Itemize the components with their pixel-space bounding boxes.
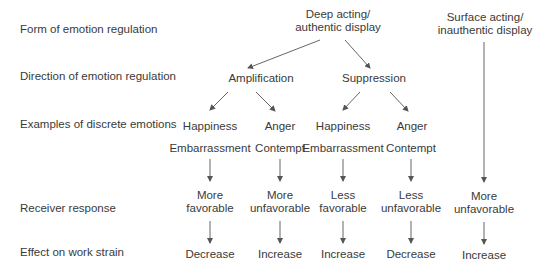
arrow-amp-to-anger xyxy=(256,92,275,111)
emotion-regulation-diagram: Form of emotion regulation Direction of … xyxy=(0,0,549,274)
arrow-sup-to-anger xyxy=(390,92,408,111)
arrow-deep-to-suppression xyxy=(345,40,370,68)
arrow-amp-to-happiness xyxy=(210,92,228,110)
arrows-layer xyxy=(0,0,549,274)
arrow-sup-to-happiness xyxy=(343,92,360,110)
arrow-deep-to-amplification xyxy=(248,40,320,68)
